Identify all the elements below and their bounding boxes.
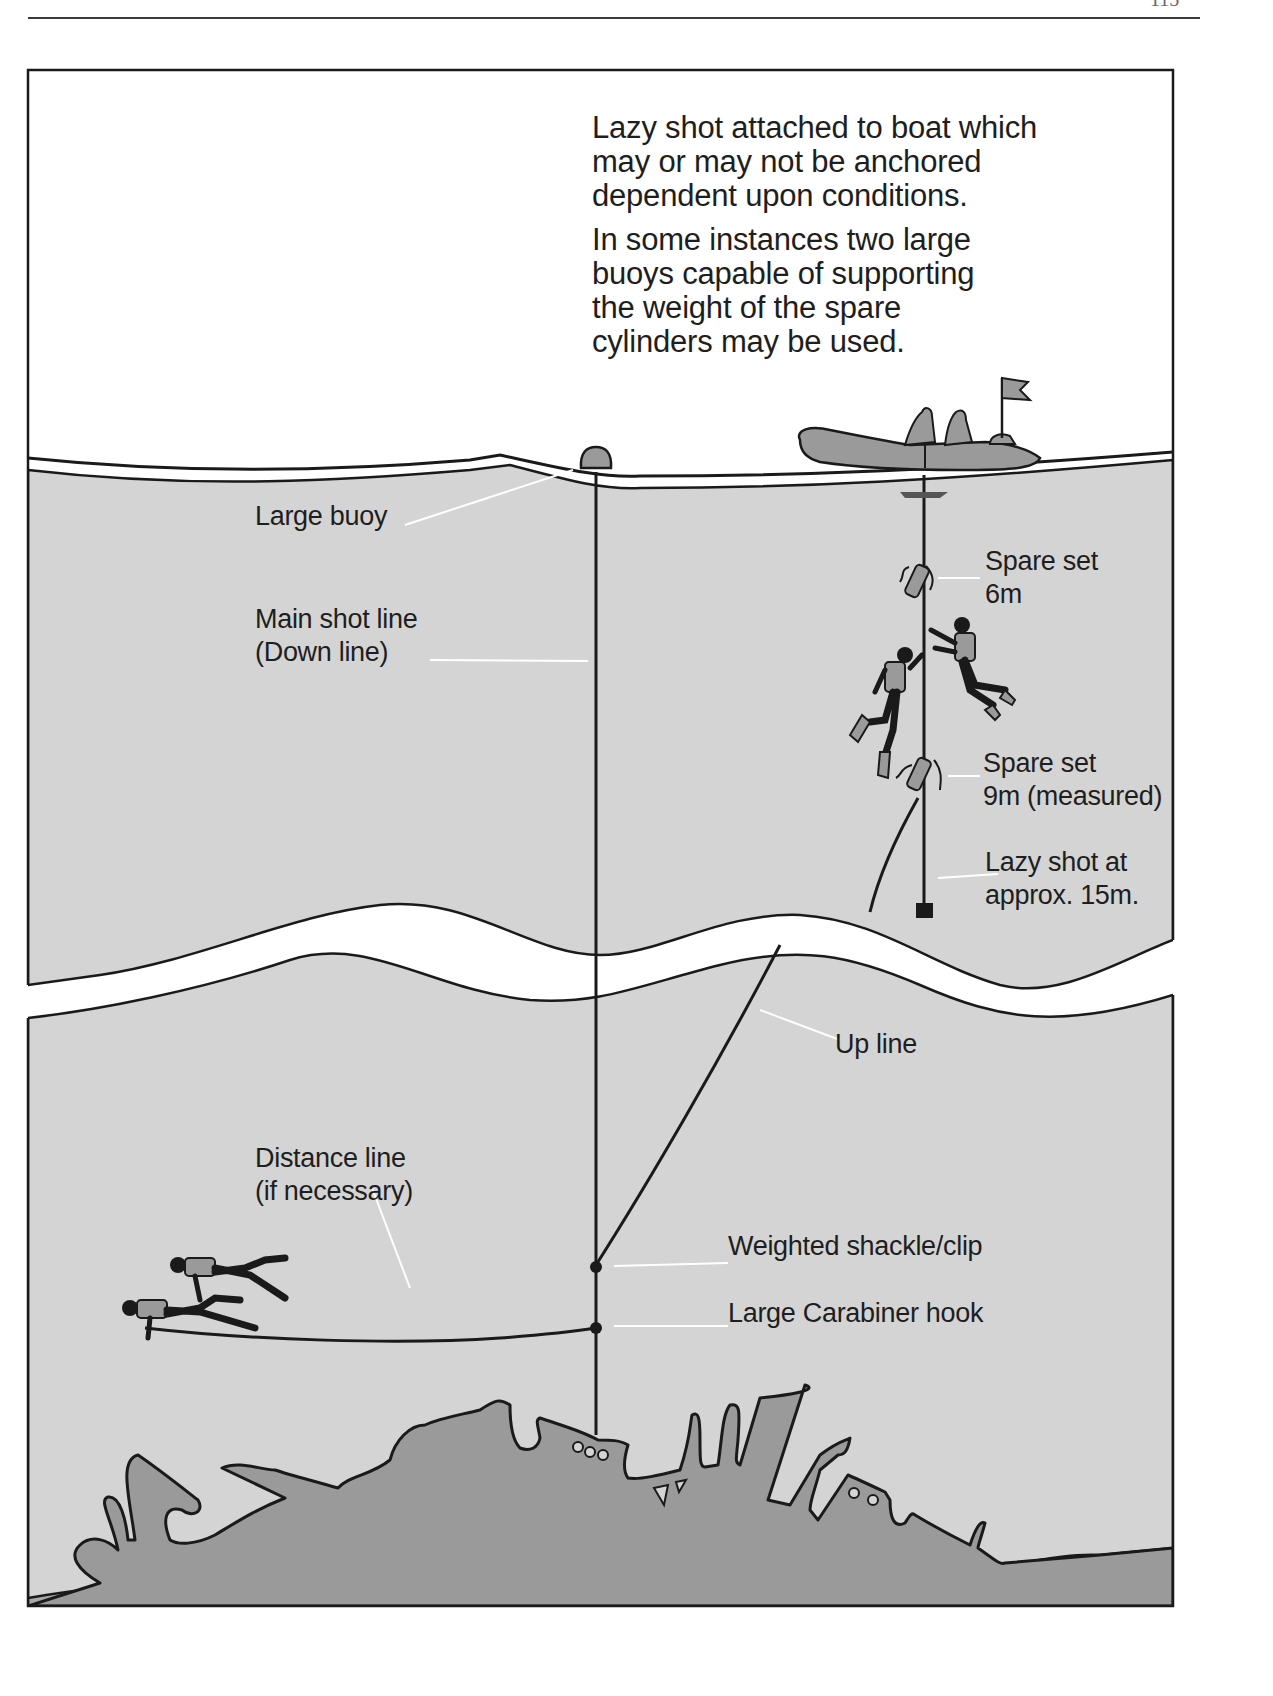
weighted-shackle-icon	[590, 1261, 602, 1273]
lazy-shot-weight-icon	[916, 903, 933, 918]
label-spare-set-6m: Spare set 6m	[985, 545, 1098, 611]
label-distance-line: Distance line (if necessary)	[255, 1142, 413, 1208]
porthole	[573, 1442, 583, 1452]
label-large-buoy: Large buoy	[255, 500, 387, 533]
porthole	[849, 1488, 859, 1498]
large-buoy-icon	[581, 447, 611, 468]
porthole	[868, 1495, 878, 1505]
label-weighted-shackle: Weighted shackle/clip	[728, 1230, 982, 1263]
label-carabiner-hook: Large Carabiner hook	[728, 1297, 983, 1330]
caption-paragraph-1: Lazy shot attached to boat which may or …	[592, 111, 1037, 213]
caption-paragraph-2: In some instances two large buoys capabl…	[592, 223, 1037, 359]
label-main-shot-line: Main shot line (Down line)	[255, 603, 417, 669]
label-spare-set-9m: Spare set 9m (measured)	[983, 747, 1162, 813]
diagram-caption: Lazy shot attached to boat which may or …	[592, 111, 1037, 369]
boat-hull-shadow	[900, 492, 948, 498]
label-lazy-shot: Lazy shot at approx. 15m.	[985, 846, 1139, 912]
porthole	[598, 1450, 608, 1460]
porthole	[585, 1447, 595, 1457]
label-up-line: Up line	[835, 1028, 917, 1061]
carabiner-hook-icon	[590, 1322, 602, 1334]
